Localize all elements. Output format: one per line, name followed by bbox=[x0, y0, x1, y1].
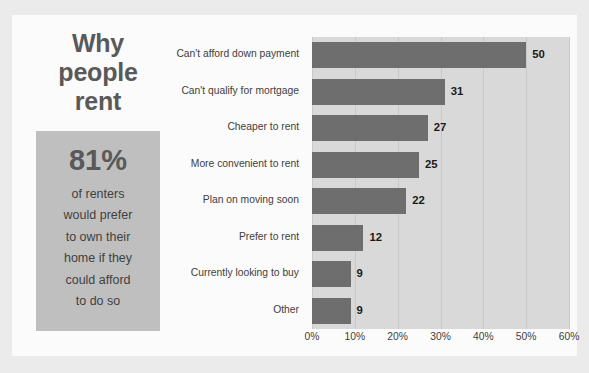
chart-x-tick-label: 30% bbox=[430, 331, 451, 342]
headline-line-1: Why bbox=[18, 29, 178, 58]
chart-category-label: Currently looking to buy bbox=[173, 267, 299, 278]
stat-caption-line-6: to do so bbox=[36, 291, 160, 313]
stat-caption-line-5: could afford bbox=[36, 270, 160, 292]
chart-bar-value-label: 50 bbox=[532, 48, 545, 60]
chart-bar bbox=[312, 188, 406, 214]
chart-bar bbox=[312, 152, 419, 178]
chart-bar bbox=[312, 42, 526, 68]
stat-caption: of renters would prefer to own their hom… bbox=[36, 184, 160, 313]
chart-category-label: Can't qualify for mortgage bbox=[173, 85, 299, 96]
chart-category-labels: Can't afford down paymentCan't qualify f… bbox=[175, 37, 304, 329]
chart-gridline bbox=[526, 37, 527, 329]
chart-category-label: Plan on moving soon bbox=[173, 194, 299, 205]
chart-plot-area: 50312725221299 bbox=[312, 37, 569, 329]
chart-bar-value-label: 31 bbox=[451, 85, 464, 97]
chart-bar bbox=[312, 79, 445, 105]
chart-x-tick-label: 40% bbox=[473, 331, 494, 342]
chart-bar-value-label: 12 bbox=[369, 231, 382, 243]
left-panel: Why people rent 81% of renters would pre… bbox=[18, 21, 178, 346]
chart-bar-value-label: 9 bbox=[357, 267, 363, 279]
chart-x-tick-label: 10% bbox=[345, 331, 366, 342]
chart-bar bbox=[312, 115, 428, 141]
chart-x-tick-label: 0% bbox=[305, 331, 320, 342]
chart-category-label: More convenient to rent bbox=[173, 158, 299, 169]
chart-bar-value-label: 27 bbox=[434, 121, 447, 133]
chart-gridline bbox=[483, 37, 484, 329]
stat-caption-line-2: would prefer bbox=[36, 205, 160, 227]
chart-category-label: Cheaper to rent bbox=[173, 121, 299, 132]
chart-x-tick-label: 20% bbox=[387, 331, 408, 342]
chart-x-tick-label: 50% bbox=[516, 331, 537, 342]
headline-line-3: rent bbox=[18, 87, 178, 116]
chart-bar bbox=[312, 261, 351, 287]
chart-bar-value-label: 9 bbox=[357, 304, 363, 316]
headline-line-2: people bbox=[18, 58, 178, 87]
chart-bar-value-label: 25 bbox=[425, 158, 438, 170]
stat-caption-line-4: home if they bbox=[36, 248, 160, 270]
chart-x-axis: 0%10%20%30%40%50%60% bbox=[312, 331, 569, 349]
chart-x-tick-label: 60% bbox=[559, 331, 580, 342]
stat-caption-line-3: to own their bbox=[36, 227, 160, 249]
chart-gridline bbox=[569, 37, 570, 329]
chart-category-label: Can't afford down payment bbox=[173, 48, 299, 59]
chart-category-label: Other bbox=[173, 304, 299, 315]
bar-chart: Can't afford down paymentCan't qualify f… bbox=[175, 21, 571, 351]
chart-bar-value-label: 22 bbox=[412, 194, 425, 206]
chart-bar bbox=[312, 298, 351, 324]
chart-category-label: Prefer to rent bbox=[173, 231, 299, 242]
infographic-canvas: Why people rent 81% of renters would pre… bbox=[12, 15, 577, 356]
stat-percentage: 81% bbox=[36, 145, 160, 177]
infographic-root: Why people rent 81% of renters would pre… bbox=[0, 0, 589, 373]
stat-caption-line-1: of renters bbox=[36, 184, 160, 206]
stat-callout-box: 81% of renters would prefer to own their… bbox=[36, 131, 160, 331]
page-title: Why people rent bbox=[18, 29, 178, 116]
chart-bar bbox=[312, 225, 363, 251]
